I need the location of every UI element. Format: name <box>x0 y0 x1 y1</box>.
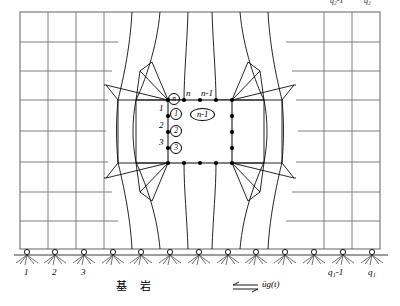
interior-row-number-1: 1 <box>159 104 164 113</box>
pin-support <box>361 249 383 265</box>
fem-mesh-figure: q₂-1 q₂ n n n-1 n-1 1 2 3 1 2 3 1 2 3 q₁… <box>0 0 400 306</box>
pin-support <box>130 249 152 265</box>
support-number-3: 3 <box>81 268 86 277</box>
pin-support <box>303 249 325 265</box>
circled-element-2-wrapper: 2 <box>170 120 182 137</box>
pin-supports <box>16 249 383 265</box>
node-label-n-minus-1: n-1 <box>201 89 213 98</box>
top-clipped-label-q2: q₂ <box>364 0 371 5</box>
support-number-q1: q₁ <box>368 268 376 277</box>
ground-motion-caption: üg(t) <box>262 280 280 289</box>
top-clipped-label-q2-minus-1: q₂-1 <box>330 0 343 5</box>
pin-support <box>44 249 66 265</box>
pin-support <box>188 249 210 265</box>
pin-support <box>332 249 354 265</box>
pin-support <box>16 249 38 265</box>
support-number-2: 2 <box>52 268 57 277</box>
interior-row-number-3: 3 <box>159 138 164 147</box>
ground-motion-arrow-icon <box>233 282 258 292</box>
pin-support <box>217 249 239 265</box>
support-number-q1-minus-1: q₁-1 <box>328 268 343 277</box>
pin-support <box>274 249 296 265</box>
circled-element-3-wrapper: 3 <box>170 137 182 154</box>
circled-element-3-glyph: 3 <box>170 142 182 154</box>
circled-element-1-wrapper: 1 <box>170 103 182 120</box>
mesh-drawing <box>0 0 400 306</box>
interior-row-number-2: 2 <box>159 121 164 130</box>
element-n-minus-1-glyph: n-1 <box>190 108 215 121</box>
pin-support <box>159 249 181 265</box>
element-label-n-minus-1-wrapper: n-1 <box>190 104 215 121</box>
bedrock-caption: 基 岩 <box>116 281 157 292</box>
circled-element-2-glyph: 2 <box>170 125 182 137</box>
pin-support <box>73 249 95 265</box>
circled-element-1-glyph: 1 <box>170 108 182 120</box>
node-label-n: n <box>186 89 191 98</box>
pin-support <box>245 249 267 265</box>
pin-support <box>102 249 124 265</box>
support-number-1: 1 <box>24 268 29 277</box>
